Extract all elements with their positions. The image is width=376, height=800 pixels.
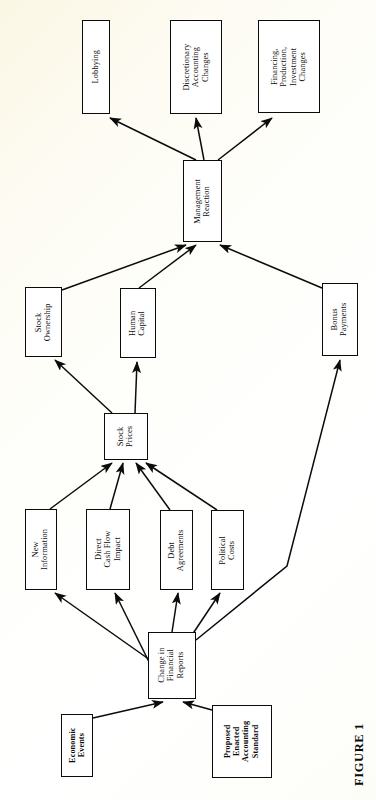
node-change-reports[interactable]: Change in Financial Reports bbox=[148, 632, 196, 699]
edge-new-information-to-stock-prices bbox=[50, 463, 112, 509]
figure-canvas: LobbyingDiscretionary Accounting Changes… bbox=[0, 0, 376, 800]
node-label-stock-ownership: Stock Ownership bbox=[34, 303, 53, 341]
node-label-stock-prices: Stock Prices bbox=[117, 426, 136, 447]
node-label-financing: Financing, Production, Investment Change… bbox=[270, 47, 308, 87]
node-debt-agreements[interactable]: Debt Agreements bbox=[160, 510, 193, 590]
edge-stock-prices-to-stock-ownership bbox=[55, 360, 112, 413]
edge-change-reports-to-new-information bbox=[55, 593, 150, 660]
figure-caption: FIGURE 1 bbox=[352, 723, 367, 786]
node-label-economic-events: Economic Events bbox=[68, 728, 86, 763]
edge-change-reports-to-political-costs bbox=[192, 593, 220, 635]
node-stock-ownership[interactable]: Stock Ownership bbox=[25, 287, 62, 357]
node-management[interactable]: Management Reaction bbox=[183, 160, 222, 242]
edge-bonus-payments-to-management bbox=[220, 245, 322, 288]
node-label-new-information: New Information bbox=[32, 529, 51, 570]
edge-political-costs-to-stock-prices bbox=[146, 463, 217, 510]
node-cash-flow[interactable]: Direct Cash Flow Impact bbox=[86, 509, 130, 590]
node-label-management: Management Reaction bbox=[193, 179, 212, 224]
node-human-capital[interactable]: Human Capital bbox=[120, 288, 156, 358]
edge-management-to-financing bbox=[218, 118, 272, 160]
node-stock-prices[interactable]: Stock Prices bbox=[104, 413, 148, 460]
edge-standard-to-change-reports bbox=[183, 702, 212, 710]
edge-economic-events-to-change-reports bbox=[93, 702, 163, 718]
edge-stock-prices-to-human-capital bbox=[135, 362, 137, 413]
edge-change-reports-to-cash-flow bbox=[115, 593, 152, 668]
node-discretionary[interactable]: Discretionary Accounting Changes bbox=[170, 20, 222, 114]
node-new-information[interactable]: New Information bbox=[25, 509, 57, 590]
node-label-discretionary: Discretionary Accounting Changes bbox=[182, 44, 210, 91]
node-label-debt-agreements: Debt Agreements bbox=[167, 529, 186, 570]
node-bonus-payments[interactable]: Bonus Payments bbox=[322, 283, 358, 356]
node-financing[interactable]: Financing, Production, Investment Change… bbox=[258, 20, 320, 113]
node-label-human-capital: Human Capital bbox=[129, 310, 148, 335]
node-label-lobbying: Lobbying bbox=[91, 50, 100, 83]
node-lobbying[interactable]: Lobbying bbox=[82, 20, 110, 114]
node-label-bonus-payments: Bonus Payments bbox=[331, 303, 350, 336]
edge-debt-agreements-to-stock-prices bbox=[136, 463, 170, 510]
edge-management-to-discretionary bbox=[196, 118, 204, 160]
edge-management-to-lobbying bbox=[110, 118, 196, 160]
edge-change-reports-to-debt-agreements bbox=[172, 593, 178, 632]
node-label-political-costs: Political Costs bbox=[218, 536, 237, 565]
edge-change-reports-to-bonus-payments bbox=[196, 360, 340, 640]
node-political-costs[interactable]: Political Costs bbox=[211, 510, 244, 590]
node-label-change-reports: Change in Financial Reports bbox=[158, 648, 186, 683]
node-economic-events[interactable]: Economic Events bbox=[61, 714, 93, 777]
node-label-standard: Proposed Enacted Accounting Standard bbox=[224, 721, 261, 762]
edge-cash-flow-to-stock-prices bbox=[110, 463, 123, 509]
node-label-cash-flow: Direct Cash Flow Impact bbox=[94, 531, 122, 568]
node-standard[interactable]: Proposed Enacted Accounting Standard bbox=[212, 705, 272, 778]
